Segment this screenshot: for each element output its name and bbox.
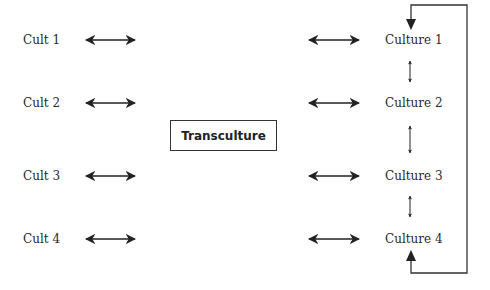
transculture-node: Transculture [170,120,277,151]
loop-arrowhead-up-icon [406,250,416,261]
loop-arrowhead-down-icon [406,19,416,30]
culture-2-label: Culture 2 [385,96,443,110]
culture-4-label: Culture 4 [385,232,443,246]
transculture-label: Transculture [181,129,266,143]
cult-2-label: Cult 2 [23,96,60,110]
cult-1-label: Cult 1 [23,33,60,47]
cult-4-label: Cult 4 [23,232,60,246]
cult-3-label: Cult 3 [23,169,60,183]
culture-3-label: Culture 3 [385,169,443,183]
diagram-canvas: Cult 1 Cult 2 Cult 3 Cult 4 Transculture… [0,0,490,290]
culture-1-label: Culture 1 [385,33,443,47]
